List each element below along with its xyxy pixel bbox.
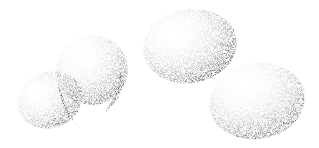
eggs-stipple-drawing (0, 0, 319, 148)
egg-illustration (0, 0, 319, 148)
